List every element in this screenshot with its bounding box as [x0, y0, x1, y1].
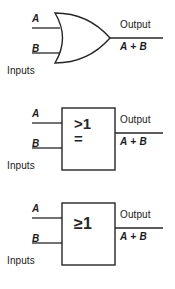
inputs-group-label: Inputs: [7, 256, 35, 266]
gate-body-rectangle: [62, 203, 115, 265]
input-label-a: A: [32, 109, 39, 119]
inputs-group-label: Inputs: [7, 66, 35, 76]
or-gate-distinctive-shape: A B Inputs Output A + B: [0, 0, 175, 96]
input-label-a: A: [32, 204, 39, 214]
input-label-b: B: [32, 139, 39, 149]
output-expression-label: A + B: [120, 232, 147, 242]
or-gate-symbols-figure: A B Inputs Output A + B >1 = A B Inputs …: [0, 0, 175, 289]
input-label-b: B: [32, 234, 39, 244]
or-gate-rectangular-greater-than-one: >1 = A B Inputs Output A + B: [0, 95, 175, 191]
or-gate-body-shape: [55, 13, 110, 63]
output-label: Output: [120, 210, 151, 220]
input-label-b: B: [32, 44, 39, 54]
or-gate-rectangular-greater-equal-one: ≥1 A B Inputs Output A + B: [0, 190, 175, 286]
output-expression-label: A + B: [120, 137, 147, 147]
output-label: Output: [120, 20, 151, 30]
output-expression-label: A + B: [120, 42, 147, 52]
gate-qualifier-symbol: ≥1: [74, 216, 92, 231]
input-label-a: A: [32, 14, 39, 24]
gate-qualifier-symbol: >1 =: [74, 117, 91, 147]
inputs-group-label: Inputs: [7, 161, 35, 171]
or-gate-distinctive-shape-drawing: [0, 0, 175, 96]
output-label: Output: [120, 115, 151, 125]
or-gate-rectangular-drawing-2: [0, 190, 175, 286]
qualifier-equals-sign: =: [74, 132, 91, 146]
